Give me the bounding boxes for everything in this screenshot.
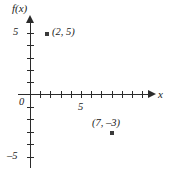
x-axis-arrowhead-icon: [148, 90, 156, 98]
x-axis-label: x: [158, 88, 163, 100]
y-tick-neg5: [27, 157, 34, 158]
x-tick-3: [61, 91, 62, 98]
y-tick-neg3: [27, 132, 34, 133]
x-tick-10: [132, 91, 133, 98]
y-axis-label: f(x): [12, 2, 27, 14]
x-tick-1: [40, 91, 41, 98]
y-tick-1: [27, 82, 34, 83]
x-tick-6: [91, 91, 92, 98]
x-tick-9: [122, 91, 123, 98]
y-tick-neg1: [27, 107, 34, 108]
y-tick-2: [27, 70, 34, 71]
x-tick-5: [81, 91, 82, 98]
y-axis-arrowhead-icon: [26, 15, 34, 23]
y-tick-5: [27, 33, 34, 34]
x-tick-8: [112, 91, 113, 98]
data-point-marker: [45, 32, 49, 36]
x-axis-line: [18, 94, 150, 95]
y-tick-label-negative-5: –5: [7, 150, 18, 161]
x-tick-7: [101, 91, 102, 98]
y-axis-line: [30, 22, 31, 168]
x-tick-4: [71, 91, 72, 98]
x-tick-2: [50, 91, 51, 98]
origin-label: 0: [19, 96, 24, 107]
x-tick-label-5: 5: [78, 101, 83, 112]
y-tick-label-5: 5: [13, 26, 18, 37]
y-tick-4: [27, 45, 34, 46]
y-tick-neg4: [27, 144, 34, 145]
y-tick-3: [27, 58, 34, 59]
data-point-label: (7, –3): [92, 117, 120, 128]
x-tick-11: [142, 91, 143, 98]
data-point-label: (2, 5): [52, 26, 75, 37]
data-point-marker: [110, 131, 114, 135]
coordinate-plane-figure: f(x) x 5 –5 5 0 (2, 5) (7, –3): [0, 0, 171, 175]
y-tick-neg2: [27, 119, 34, 120]
